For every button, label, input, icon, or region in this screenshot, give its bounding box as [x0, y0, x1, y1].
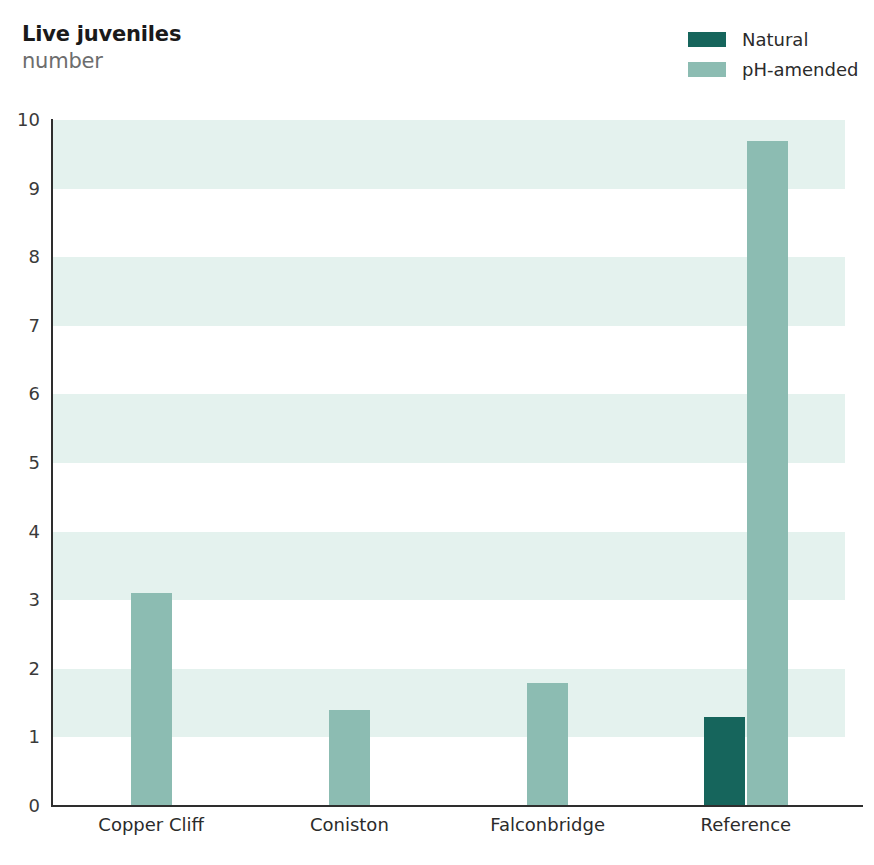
legend-swatch-icon: [688, 32, 726, 47]
y-tick-label: 5: [29, 454, 40, 472]
chart-plot: 012345678910 Copper CliffConistonFalconb…: [0, 106, 874, 865]
footer-cutoff-text: [0, 859, 874, 865]
legend-item-ph-amended[interactable]: pH-amended: [688, 54, 858, 84]
bar-ph-amended[interactable]: [131, 593, 172, 806]
y-tick-label: 1: [29, 728, 40, 746]
chart-header: Live juveniles number Natural pH-amended: [0, 0, 874, 106]
x-tick-label: Reference: [701, 814, 792, 835]
legend-item-label: pH-amended: [742, 59, 858, 80]
y-tick-label: 2: [29, 660, 40, 678]
legend-item-label: Natural: [742, 29, 808, 50]
x-axis: Copper CliffConistonFalconbridgeReferenc…: [52, 814, 845, 854]
y-tick-label: 9: [29, 180, 40, 198]
y-axis: 012345678910: [0, 106, 46, 806]
x-tick-label: Coniston: [310, 814, 389, 835]
bars-layer: [52, 120, 845, 806]
plot-area: [52, 120, 845, 806]
bar-ph-amended[interactable]: [747, 141, 788, 806]
y-tick-label: 10: [17, 111, 40, 129]
legend-item-natural[interactable]: Natural: [688, 24, 858, 54]
title-block: Live juveniles number: [22, 22, 181, 74]
y-tick-label: 8: [29, 248, 40, 266]
y-tick-label: 4: [29, 523, 40, 541]
chart-subtitle: number: [22, 48, 181, 74]
y-tick-label: 6: [29, 385, 40, 403]
y-tick-label: 7: [29, 317, 40, 335]
bar-ph-amended[interactable]: [329, 710, 370, 806]
bar-natural[interactable]: [704, 717, 745, 806]
page-title: Live juveniles: [22, 22, 181, 46]
x-axis-line: [51, 805, 863, 807]
legend-swatch-icon: [688, 62, 726, 77]
x-tick-label: Copper Cliff: [98, 814, 204, 835]
y-tick-label: 0: [29, 797, 40, 815]
y-tick-label: 3: [29, 591, 40, 609]
chart-legend: Natural pH-amended: [688, 24, 858, 84]
bar-ph-amended[interactable]: [527, 683, 568, 806]
y-axis-line: [51, 119, 53, 807]
x-tick-label: Falconbridge: [490, 814, 605, 835]
